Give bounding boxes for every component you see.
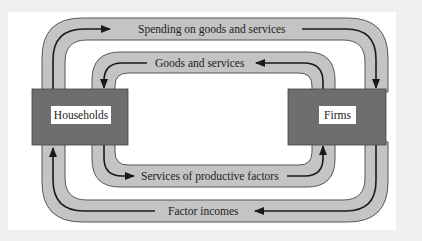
flow-label-spending: Spending on goods and services (138, 23, 286, 36)
firms-node: Firms (288, 89, 386, 145)
households-node: Households (32, 89, 128, 145)
flow-label-factor-services: Services of productive factors (141, 170, 279, 183)
firms-label: Firms (324, 109, 351, 121)
flow-label-factor-incomes: Factor incomes (168, 205, 239, 217)
flow-label-goods: Goods and services (155, 57, 245, 69)
households-label: Households (54, 109, 109, 121)
circular-flow-diagram: Spending on goods and services Goods and… (0, 0, 422, 241)
